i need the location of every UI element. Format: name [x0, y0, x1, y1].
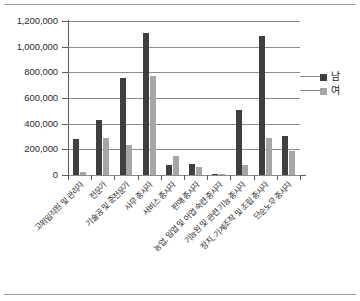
- plot-area: [68, 21, 300, 175]
- y-tick-label: 800,000: [24, 67, 58, 77]
- y-tick-label: 600,000: [24, 93, 58, 103]
- y-tick-mark: [62, 149, 68, 150]
- gridline: [68, 72, 300, 73]
- gridline: [68, 124, 300, 125]
- x-tick-mark: [300, 175, 301, 180]
- bar: [166, 165, 172, 175]
- x-tick-mark: [207, 175, 208, 180]
- gridline: [68, 47, 300, 48]
- bar: [126, 145, 132, 175]
- legend-rule-top: [300, 76, 320, 77]
- bar: [289, 151, 295, 175]
- x-tick-mark: [114, 175, 115, 180]
- gridline: [68, 21, 300, 22]
- gridline: [68, 98, 300, 99]
- y-tick-label: 400,000: [24, 119, 58, 129]
- bar: [266, 138, 272, 175]
- y-tick-label: 1,000,000: [17, 42, 58, 52]
- bar: [103, 138, 109, 175]
- bar: [189, 164, 195, 175]
- legend-item: 남: [320, 70, 340, 84]
- bar: [282, 136, 288, 175]
- x-tick-mark: [184, 175, 185, 180]
- bar: [96, 120, 102, 175]
- x-tick-mark: [91, 175, 92, 180]
- bar: [212, 174, 218, 175]
- chart-legend: 남여: [320, 70, 340, 98]
- y-tick-mark: [62, 98, 68, 99]
- bar: [259, 36, 265, 175]
- figure-top-border: [4, 4, 356, 5]
- bar: [173, 156, 179, 175]
- y-tick-mark: [62, 124, 68, 125]
- bar: [143, 33, 149, 175]
- y-tick-mark: [62, 47, 68, 48]
- y-tick-mark: [62, 21, 68, 22]
- bar: [242, 165, 248, 175]
- bar: [120, 78, 126, 175]
- x-tick-mark: [68, 175, 69, 180]
- bar: [219, 174, 225, 175]
- legend-item: 여: [320, 84, 340, 98]
- bar: [73, 139, 79, 175]
- y-tick-label: 200,000: [24, 144, 58, 154]
- x-tick-mark: [138, 175, 139, 180]
- legend-swatch-icon: [320, 74, 327, 81]
- bar: [150, 76, 156, 175]
- y-tick-mark: [62, 72, 68, 73]
- x-tick-mark: [161, 175, 162, 180]
- bar: [196, 167, 202, 175]
- x-tick-mark: [277, 175, 278, 180]
- legend-rule-bottom: [300, 90, 320, 91]
- y-tick-label: 1,200,000: [17, 16, 58, 26]
- legend-swatch-icon: [320, 88, 327, 95]
- x-tick-mark: [254, 175, 255, 180]
- x-tick-mark: [230, 175, 231, 180]
- bar: [80, 172, 86, 175]
- y-tick-label: 0: [53, 170, 58, 180]
- bar-chart-figure: 1,200,0001,000,000800,000600,000400,0002…: [0, 0, 360, 301]
- legend-label: 남: [331, 72, 340, 82]
- legend-label: 여: [331, 86, 340, 96]
- bar: [236, 110, 242, 175]
